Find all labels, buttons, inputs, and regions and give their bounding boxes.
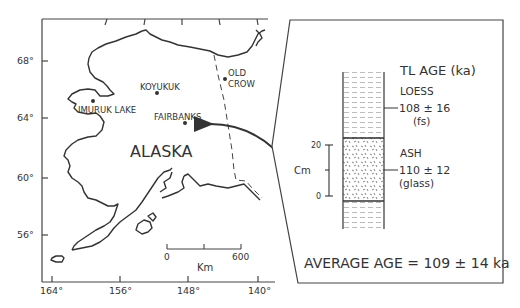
section-panel-frame bbox=[272, 20, 503, 283]
koyukuk-label: KOYUKUK bbox=[140, 82, 180, 92]
lat-label-60: 60° bbox=[17, 172, 34, 183]
ash-material: (glass) bbox=[399, 177, 434, 189]
figure: 68° 64° 60° 56° 164° 156° 148° 140° KOYU… bbox=[0, 0, 520, 308]
old-crow-label-line1: OLD bbox=[228, 68, 246, 78]
old-crow-label-line2: CROW bbox=[228, 79, 256, 89]
imuruk-lake-label: IMURUK LAKE bbox=[78, 105, 136, 115]
ash-label: ASH bbox=[400, 147, 422, 159]
scale-unit: Km bbox=[197, 262, 213, 273]
lon-label-156: 156° bbox=[109, 285, 132, 296]
region-label: ALASKA bbox=[130, 142, 193, 161]
depth-bottom-label: 0 bbox=[316, 192, 321, 201]
scale-end: 600 bbox=[232, 252, 249, 262]
scale-start: 0 bbox=[164, 252, 170, 262]
lat-label-68: 68° bbox=[17, 55, 34, 66]
lat-label-56: 56° bbox=[17, 229, 34, 240]
location-arrow bbox=[210, 124, 273, 148]
depth-top-label: 20 bbox=[311, 141, 321, 150]
lon-label-164: 164° bbox=[40, 285, 63, 296]
loess-layer-lower bbox=[343, 201, 384, 229]
loess-age: 108 ± 16 bbox=[399, 102, 450, 115]
depth-unit-label: Cm bbox=[294, 165, 311, 176]
ash-age: 110 ± 12 bbox=[399, 164, 450, 177]
section-title: TL AGE (ka) bbox=[399, 63, 476, 78]
latitude-ticks bbox=[42, 61, 48, 235]
ash-layer bbox=[343, 138, 384, 201]
loess-label: LOESS bbox=[400, 85, 434, 97]
fairbanks-label: FAIRBANKS bbox=[154, 112, 201, 122]
imuruk-lake-dot bbox=[91, 99, 95, 103]
lon-label-140: 140° bbox=[248, 285, 271, 296]
lon-label-148: 148° bbox=[177, 285, 200, 296]
old-crow-dot bbox=[223, 77, 227, 81]
loess-material: (fs) bbox=[413, 115, 430, 127]
map-scale-bar bbox=[167, 244, 241, 249]
loess-layer-upper bbox=[343, 72, 384, 138]
lat-label-64: 64° bbox=[17, 112, 34, 123]
average-age: AVERAGE AGE = 109 ± 14 ka bbox=[304, 255, 509, 271]
